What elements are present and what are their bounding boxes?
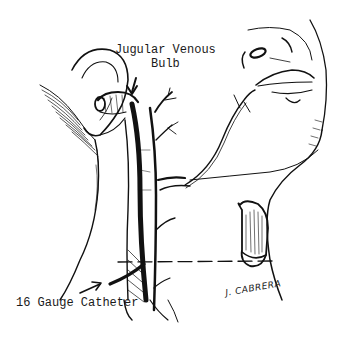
facial-vein (185, 90, 255, 185)
neck-back-outline (60, 140, 99, 300)
internal-jugular-vein (132, 104, 156, 310)
thyroid-cartilage (238, 201, 268, 266)
jugular-venous-bulb-label-line2: Bulb (115, 57, 216, 71)
jugular-venous-bulb-label-line1: Jugular Venous (115, 43, 216, 57)
catheter-label: 16 Gauge Catheter (16, 296, 138, 310)
jugular-venous-bulb-label: Jugular Venous Bulb (115, 43, 216, 71)
hair-hatching (40, 85, 98, 156)
illustration-canvas: Jugular Venous Bulb 16 Gauge Catheter J.… (0, 0, 346, 337)
